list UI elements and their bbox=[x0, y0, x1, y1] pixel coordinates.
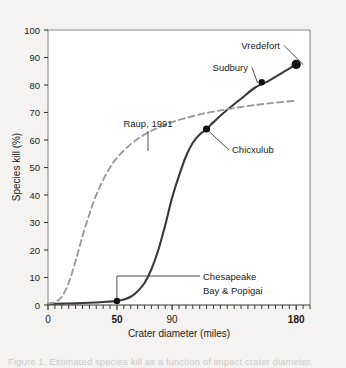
x-tick-label: 90 bbox=[167, 314, 179, 325]
y-tick-label: 10 bbox=[29, 272, 40, 283]
y-tick-label: 60 bbox=[29, 135, 40, 146]
data-point-marker[interactable] bbox=[259, 79, 265, 85]
y-tick-label: 0 bbox=[35, 300, 40, 311]
data-point-marker[interactable] bbox=[203, 125, 210, 132]
y-tick-label: 20 bbox=[29, 245, 40, 256]
y-tick-label: 50 bbox=[29, 162, 40, 173]
figure-container: 0102030405060708090100 05090180 Vredefor… bbox=[0, 0, 346, 368]
figure-caption: Figure 1. Estimated species kill as a fu… bbox=[0, 356, 346, 368]
y-tick-label: 90 bbox=[29, 52, 40, 63]
species-kill-chart: 0102030405060708090100 05090180 Vredefor… bbox=[0, 0, 346, 368]
y-tick-label: 100 bbox=[24, 25, 40, 36]
annotation-chicxulub: Chicxulub bbox=[232, 144, 274, 155]
annotation-vredefort: Vredefort bbox=[241, 40, 280, 51]
y-tick-label: 70 bbox=[29, 107, 40, 118]
y-tick-label: 40 bbox=[29, 190, 40, 201]
annotation-raup-1991: Raup, 1991 bbox=[123, 118, 172, 129]
figure-caption-strip: Figure 1. Estimated species kill as a fu… bbox=[0, 356, 346, 368]
y-axis-title: Species kill (%) bbox=[11, 133, 22, 201]
y-tick-label: 30 bbox=[29, 217, 40, 228]
annotation-sudbury: Sudbury bbox=[213, 62, 249, 73]
y-tick-label: 80 bbox=[29, 80, 40, 91]
x-axis-title: Crater diameter (miles) bbox=[128, 328, 230, 339]
x-tick-label: 50 bbox=[111, 314, 123, 325]
annotation-chesapeake-line1: Chesapeake bbox=[203, 271, 256, 282]
x-tick-label: 180 bbox=[288, 314, 305, 325]
x-tick-label: 0 bbox=[45, 314, 51, 325]
annotation-chesapeake-line2: Bay & Popigai bbox=[203, 285, 263, 296]
plot-area-background bbox=[48, 30, 310, 305]
